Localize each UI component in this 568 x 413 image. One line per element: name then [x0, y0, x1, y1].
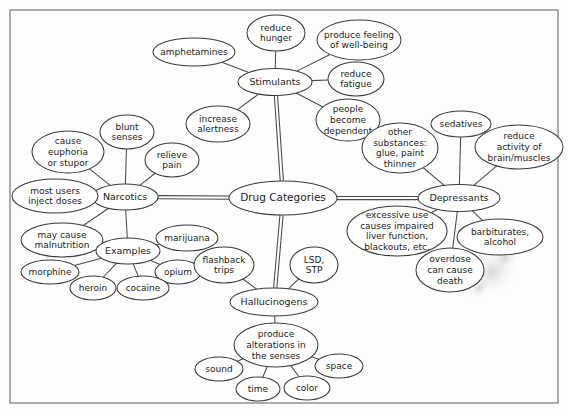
node-label-color: color: [296, 383, 318, 393]
node-sedatives[interactable]: sedatives: [431, 111, 491, 137]
node-label-opium: opium: [164, 267, 192, 277]
node-label-sound: sound: [205, 364, 232, 374]
node-malnutrition[interactable]: may causemalnutrition: [21, 223, 103, 257]
concept-map-canvas: Drug CategoriesStimulantsreducehungerpro…: [0, 0, 568, 413]
node-overdose[interactable]: overdosecan causedeath: [416, 248, 484, 292]
node-morphine[interactable]: morphine: [21, 260, 79, 284]
node-alterations[interactable]: producealterations inthe senses: [234, 323, 318, 367]
node-sound[interactable]: sound: [195, 357, 243, 381]
node-marijuana[interactable]: marijuana: [156, 225, 218, 251]
node-label-amphetamines: amphetamines: [160, 47, 228, 57]
node-label-increase_alert: increasealertness: [197, 113, 239, 134]
node-inject_doses[interactable]: most usersinject doses: [12, 179, 98, 213]
node-lsd[interactable]: LSD,STP: [290, 247, 338, 283]
node-blunt_senses[interactable]: bluntsenses: [100, 115, 154, 149]
node-label-cocaine: cocaine: [126, 283, 161, 293]
node-other_subst[interactable]: othersubstances:glue, paintthinner: [362, 123, 438, 173]
node-label-excessive_use: excessive usecauses impairedliver functi…: [360, 210, 434, 252]
node-cocaine[interactable]: cocaine: [117, 276, 169, 300]
edge-stimulants-to-reduce_fatigue: [312, 80, 328, 81]
node-label-inject_doses: most usersinject doses: [28, 185, 82, 206]
node-label-hallucinogens: Hallucinogens: [241, 296, 308, 307]
concept-map-svg: Drug CategoriesStimulantsreducehungerpro…: [0, 0, 568, 413]
node-label-space: space: [326, 361, 353, 371]
node-reduce_activity[interactable]: reduceactivity ofbrain/muscles: [475, 125, 563, 169]
node-label-stimulants: Stimulants: [250, 76, 301, 87]
node-relieve_pain[interactable]: relievepain: [145, 143, 199, 177]
node-euphoria[interactable]: causeeuphoriaor stupor: [32, 131, 104, 173]
node-increase_alert[interactable]: increasealertness: [186, 106, 250, 142]
node-label-blunt_senses: bluntsenses: [112, 121, 143, 142]
node-label-marijuana: marijuana: [164, 233, 209, 243]
node-hallucinogens[interactable]: Hallucinogens: [230, 288, 318, 316]
node-label-root: Drug Categories: [240, 191, 326, 203]
node-heroin[interactable]: heroin: [70, 276, 116, 300]
node-depressants[interactable]: Depressants: [418, 185, 500, 212]
node-stimulants[interactable]: Stimulants: [238, 69, 312, 96]
node-label-morphine: morphine: [28, 267, 72, 277]
node-label-reduce_hunger: reducehunger: [260, 22, 292, 43]
node-excessive_use[interactable]: excessive usecauses impairedliver functi…: [347, 206, 447, 256]
node-label-lsd: LSD,STP: [304, 254, 325, 275]
node-flashback[interactable]: flashbacktrips: [194, 247, 254, 283]
node-narcotics[interactable]: Narcotics: [92, 184, 158, 210]
node-reduce_hunger[interactable]: reducehunger: [247, 15, 305, 51]
node-label-wellbeing: produce feelingof well-being: [324, 29, 394, 50]
node-barbiturates[interactable]: barbiturates,alcohol: [457, 219, 543, 255]
node-label-narcotics: Narcotics: [103, 191, 147, 202]
node-label-depressants: Depressants: [429, 192, 488, 203]
node-label-reduce_fatigue: reducefatigue: [340, 68, 372, 89]
node-label-time: time: [248, 384, 269, 394]
node-root[interactable]: Drug Categories: [229, 181, 337, 215]
node-label-malnutrition: may causemalnutrition: [34, 229, 89, 250]
node-examples[interactable]: Examples: [96, 238, 160, 264]
node-reduce_fatigue[interactable]: reducefatigue: [328, 62, 384, 96]
node-color[interactable]: color: [284, 376, 330, 400]
node-wellbeing[interactable]: produce feelingof well-being: [317, 20, 401, 60]
node-label-heroin: heroin: [79, 283, 107, 293]
node-label-sedatives: sedatives: [439, 119, 482, 129]
node-label-examples: Examples: [105, 245, 151, 256]
node-amphetamines[interactable]: amphetamines: [153, 38, 235, 66]
node-space[interactable]: space: [315, 354, 363, 378]
node-time[interactable]: time: [236, 377, 280, 401]
